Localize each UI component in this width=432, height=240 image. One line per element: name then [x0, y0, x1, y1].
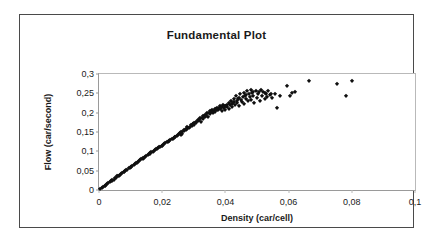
plot-area: 00,050,10,150,20,250,3 00,020,040,060,08… [98, 73, 416, 191]
x-tick-mark [415, 190, 416, 193]
scatter-points-layer [99, 74, 415, 190]
scatter-point [252, 100, 257, 105]
scatter-point [242, 102, 247, 107]
scatter-point [344, 94, 349, 99]
x-tick-label: 0,04 [217, 197, 235, 207]
scatter-point [147, 151, 152, 156]
y-tick-label: 0,2 [81, 108, 94, 118]
y-tick-label: 0 [89, 185, 94, 195]
x-axis-title: Density (car/cell) [98, 213, 416, 223]
chart-title: Fundamental Plot [20, 29, 413, 41]
scatter-point [277, 94, 282, 99]
scatter-point [237, 103, 242, 108]
scatter-point [274, 106, 279, 111]
x-tick-label: 0,08 [343, 197, 361, 207]
x-tick-mark [288, 190, 289, 193]
y-tick-label: 0,15 [76, 127, 94, 137]
scatter-point [307, 78, 312, 83]
x-tick-label: 0 [96, 197, 101, 207]
x-tick-mark [225, 190, 226, 193]
scatter-point [257, 98, 262, 103]
y-axis-title-text: Flow (car/second) [43, 94, 53, 171]
scatter-point [350, 78, 355, 83]
figure-outer-frame: Fundamental Plot Flow (car/second) 00,05… [19, 14, 414, 228]
scatter-point [141, 156, 146, 161]
x-tick-label: 0,06 [280, 197, 298, 207]
y-tick-label: 0,1 [81, 146, 94, 156]
scatter-point [335, 81, 340, 86]
y-axis-title: Flow (car/second) [40, 71, 56, 193]
x-tick-label: 0,1 [409, 197, 422, 207]
scatter-point [285, 83, 290, 88]
x-tick-label: 0,02 [153, 197, 171, 207]
y-tick-label: 0,05 [76, 166, 94, 176]
x-tick-mark [162, 190, 163, 193]
x-tick-mark [351, 190, 352, 193]
y-tick-label: 0,3 [81, 69, 94, 79]
y-tick-label: 0,25 [76, 88, 94, 98]
